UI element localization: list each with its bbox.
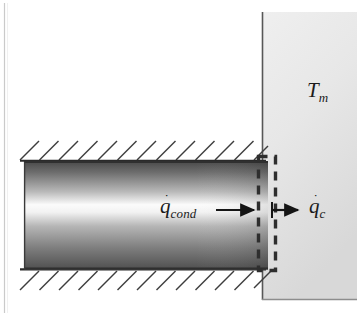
convection-flux-symbol: ˙q — [309, 196, 320, 217]
hatching-top — [20, 141, 268, 161]
wall-temperature-label: Tm — [307, 80, 328, 101]
figure-canvas — [0, 0, 357, 315]
page-edge-artifact — [5, 3, 8, 313]
conduction-flux-symbol: ˙q — [160, 196, 171, 217]
wall-temperature-subscript: m — [319, 91, 329, 104]
heat-transfer-figure: Tm ˙q cond ˙q c — [0, 0, 357, 315]
conducting-rod — [24, 162, 268, 270]
conduction-flux-subscript: cond — [171, 207, 197, 220]
convection-flux-subscript: c — [320, 207, 326, 220]
conduction-flux-label: ˙q cond — [160, 196, 197, 217]
hatching-bottom — [20, 269, 271, 290]
overdot-icon: ˙ — [164, 192, 168, 205]
convection-flux-label: ˙q c — [309, 196, 325, 217]
overdot-icon: ˙ — [313, 192, 317, 205]
wall-temperature-symbol: T — [307, 80, 319, 101]
